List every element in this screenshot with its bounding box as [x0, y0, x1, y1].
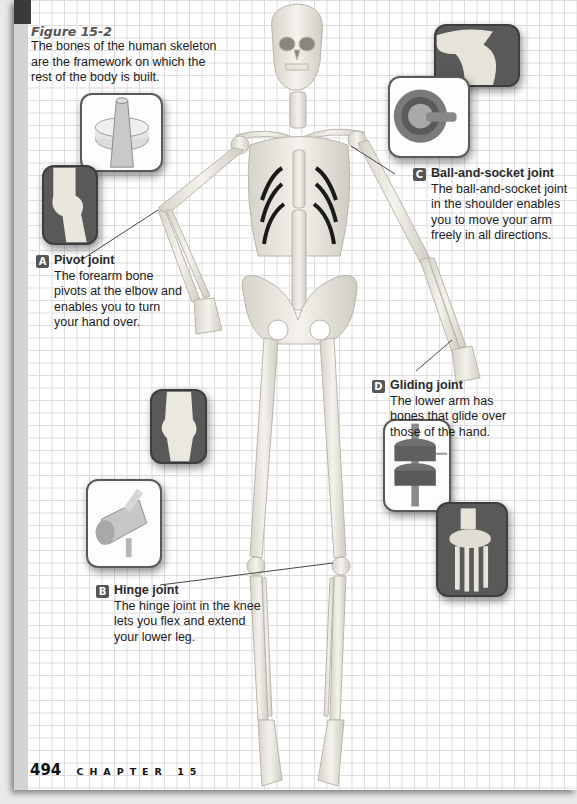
badge-a: A: [36, 255, 49, 268]
knee-xray-inset: [150, 389, 207, 464]
gliding-joint-description: The lower arm has bones that glide over …: [372, 394, 522, 441]
page-number: 494: [30, 761, 61, 779]
label-ball-socket-joint: CBall-and-socket joint The ball-and-sock…: [413, 166, 573, 244]
hinge-model-inset: [86, 479, 162, 568]
pivot-joint-model-inset: [80, 93, 163, 172]
pivot-model-icon: [82, 95, 161, 170]
pivot-joint-description: The forearm bone pivots at the elbow and…: [36, 269, 186, 331]
hinge-joint-description: The hinge joint in the knee lets you fle…: [96, 599, 271, 646]
badge-c: C: [413, 168, 426, 181]
hand-xray-inset: [436, 502, 508, 597]
ball-socket-model-inset: [388, 76, 470, 158]
elbow-xray-inset: [42, 165, 98, 245]
elbow-bone-icon: [44, 167, 96, 243]
badge-d: D: [372, 380, 385, 393]
page-footer: 494 CHAPTER 15: [30, 760, 202, 779]
ball-socket-model-icon: [390, 78, 468, 156]
chapter-label: CHAPTER 15: [76, 766, 202, 777]
hand-bone-icon: [438, 504, 506, 595]
page-tab-marker: [14, 0, 31, 24]
figure-caption: Figure 15-2 The bones of the human skele…: [31, 24, 221, 86]
label-hinge-joint: BHinge joint The hinge joint in the knee…: [96, 583, 271, 645]
gliding-joint-title: Gliding joint: [390, 378, 463, 392]
hinge-model-icon: [88, 481, 160, 566]
label-gliding-joint: DGliding joint The lower arm has bones t…: [372, 378, 522, 440]
figure-caption-text: The bones of the human skeleton are the …: [31, 39, 221, 86]
pivot-joint-title: Pivot joint: [54, 253, 114, 267]
page-edge-strip: [14, 24, 28, 790]
ball-socket-joint-description: The ball-and-socket joint in the shoulde…: [413, 182, 573, 244]
knee-bone-icon: [152, 391, 205, 462]
badge-b: B: [96, 585, 109, 598]
figure-number: Figure 15-2: [31, 24, 221, 39]
ball-socket-joint-title: Ball-and-socket joint: [431, 166, 554, 180]
label-pivot-joint: APivot joint The forearm bone pivots at …: [36, 253, 186, 331]
hinge-joint-title: Hinge joint: [114, 583, 179, 597]
